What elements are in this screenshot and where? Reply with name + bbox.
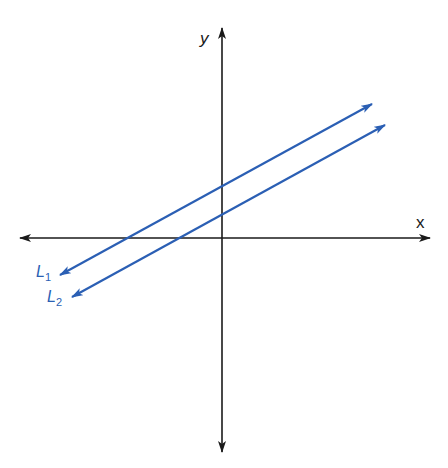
line-l2 [72,125,385,297]
coordinate-plane-diagram: x y L1 L2 [0,0,448,468]
line-l2-label: L2 [47,288,62,308]
line-l1-label: L1 [36,263,51,283]
x-axis-label: x [416,213,425,232]
y-axis-label: y [199,29,210,48]
line-l1 [60,104,372,275]
